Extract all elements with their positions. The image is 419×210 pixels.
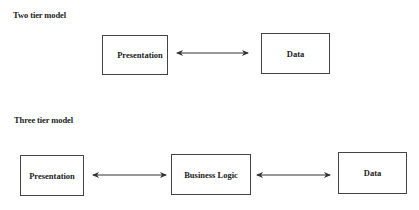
connector-arrows (0, 0, 419, 210)
